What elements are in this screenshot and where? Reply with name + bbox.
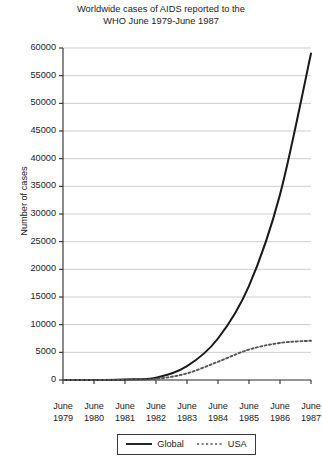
y-axis-tick-label: 25000: [8, 237, 56, 246]
y-axis-tick-label: 55000: [8, 71, 56, 80]
series-line-global: [63, 54, 311, 381]
plot-svg: [63, 48, 311, 380]
chart-title-line-1: Worldwide cases of AIDS reported to the: [30, 3, 292, 15]
y-axis-tick-label: 5000: [8, 347, 56, 356]
y-axis-tick-label: 20000: [8, 264, 56, 273]
y-axis-ticks: [59, 48, 63, 380]
y-axis-tick-label: 50000: [8, 98, 56, 107]
chart-title-line-2: WHO June 1979-June 1987: [30, 15, 292, 27]
legend-label: Global: [157, 440, 184, 449]
legend-item-global[interactable]: Global: [126, 440, 184, 449]
gridlines: [63, 48, 311, 352]
legend-label: USA: [228, 440, 247, 449]
plot-area: [63, 48, 311, 380]
y-axis-tick-labels: 6000055000500004500040000350003000025000…: [6, 0, 56, 463]
y-axis-tick-label: 45000: [8, 126, 56, 135]
y-axis-tick-label: 35000: [8, 181, 56, 190]
chart-legend: GlobalUSA: [117, 434, 256, 455]
chart-title: Worldwide cases of AIDS reported to the …: [30, 3, 292, 27]
x-axis-tick-labels: June1979June1980June1981June1982June1983…: [63, 401, 311, 427]
legend-swatch-solid-icon: [126, 440, 152, 448]
y-axis-tick-label: 10000: [8, 320, 56, 329]
data-series-group: [63, 54, 311, 381]
legend-swatch-dashed-icon: [197, 440, 223, 448]
x-axis-tick-year: 1987: [288, 413, 322, 425]
y-axis-tick-label: 40000: [8, 154, 56, 163]
legend-item-usa[interactable]: USA: [197, 440, 247, 449]
aids-cases-line-chart: Worldwide cases of AIDS reported to the …: [0, 0, 322, 463]
x-axis-tick-label: June1987: [288, 401, 322, 424]
x-axis-tick-month: June: [288, 401, 322, 413]
y-axis-tick-label: 30000: [8, 209, 56, 218]
y-axis-tick-label: 15000: [8, 292, 56, 301]
series-line-usa: [63, 341, 311, 380]
y-axis-tick-label: 0: [8, 375, 56, 384]
y-axis-tick-label: 60000: [8, 43, 56, 52]
